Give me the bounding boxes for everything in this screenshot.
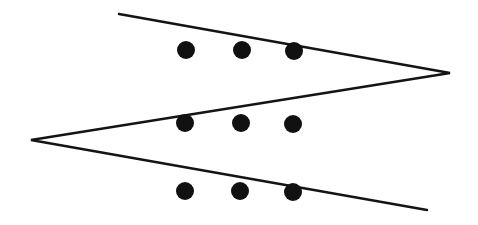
dot-r2-c1 <box>176 114 194 132</box>
dot-r2-c3 <box>284 115 302 133</box>
dot-r2-c2 <box>232 114 250 132</box>
dot-r3-c1 <box>176 182 194 200</box>
dot-r1-c3 <box>285 42 303 60</box>
zigzag-dots-diagram <box>0 0 478 225</box>
dot-r3-c2 <box>231 182 249 200</box>
dot-r3-c3 <box>284 183 302 201</box>
dot-r1-c2 <box>233 41 251 59</box>
dot-r1-c1 <box>177 41 195 59</box>
